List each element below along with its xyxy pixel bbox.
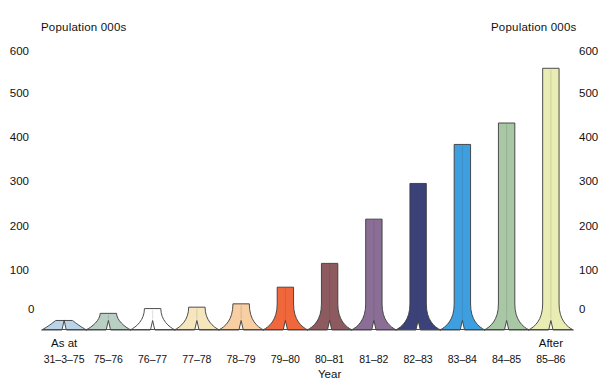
population-bar-chart: Population 000s Population 000s 600 500 … xyxy=(0,0,615,387)
y-tick-label-200-left: 200 xyxy=(10,220,29,232)
y-tick-label-500-right: 500 xyxy=(579,87,598,99)
y-tick-label-100-right: 100 xyxy=(579,264,598,276)
y-tick-label-400-right: 400 xyxy=(579,131,598,143)
y-tick-label-600-right: 600 xyxy=(579,45,598,57)
x-axis-baseline xyxy=(42,329,573,331)
x-tick-label: 85–86 xyxy=(511,353,591,365)
x-axis-title: Year xyxy=(290,368,370,380)
y-tick-label-0-right: 0 xyxy=(579,303,585,315)
y-tick-label-0-left: 0 xyxy=(28,303,34,315)
x-axis-note-as-at: As at xyxy=(24,337,104,349)
y-axis-title-left: Population 000s xyxy=(41,21,126,33)
y-tick-label-500-left: 500 xyxy=(10,87,29,99)
y-tick-label-300-right: 300 xyxy=(579,175,598,187)
y-tick-label-300-left: 300 xyxy=(10,175,29,187)
plot-area xyxy=(42,40,573,330)
bar-series xyxy=(42,40,573,331)
x-axis-note-after: After xyxy=(511,337,591,349)
y-tick-label-100-left: 100 xyxy=(10,264,29,276)
y-tick-label-600-left: 600 xyxy=(10,45,29,57)
y-axis-title-right: Population 000s xyxy=(491,21,576,33)
y-tick-label-200-right: 200 xyxy=(579,220,598,232)
y-tick-label-400-left: 400 xyxy=(10,131,29,143)
